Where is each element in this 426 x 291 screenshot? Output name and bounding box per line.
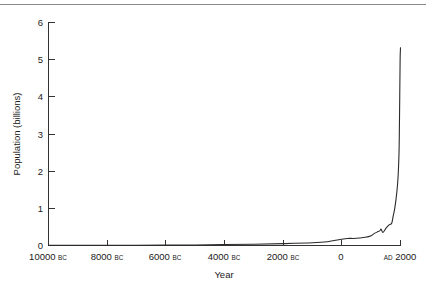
x-axis-title: Year: [214, 269, 233, 280]
y-tick-labels: 6 5 4 3 2 1 0: [38, 17, 43, 251]
x-tick-label-2000bc: 2000BC: [267, 251, 300, 262]
y-axis-title: Population (billions): [11, 93, 22, 176]
x-tick-labels: 10000BC 8000BC 6000BC 4000BC 2000BC 0 AD…: [29, 251, 416, 262]
x-tick-label-10000bc: 10000BC: [29, 251, 67, 262]
y-tick-label: 6: [38, 17, 43, 28]
population-chart: 6 5 4 3 2 1 0 10000BC 8000BC 6000BC 4000…: [0, 0, 426, 291]
x-tick-label-6000bc: 6000BC: [149, 251, 182, 262]
y-tick-label: 1: [38, 203, 43, 214]
y-tick-label: 4: [38, 91, 43, 102]
y-tick-marks: [49, 23, 55, 246]
x-tick-label-4000bc: 4000BC: [208, 251, 241, 262]
population-curve: [49, 48, 401, 246]
x-tick-label-ad2000: AD2000: [384, 251, 417, 262]
y-tick-label: 2: [38, 166, 43, 177]
y-tick-label: 0: [38, 240, 43, 251]
y-tick-label: 5: [38, 54, 43, 65]
x-tick-label-zero: 0: [338, 251, 343, 262]
x-tick-label-8000bc: 8000BC: [91, 251, 124, 262]
y-tick-label: 3: [38, 129, 43, 140]
